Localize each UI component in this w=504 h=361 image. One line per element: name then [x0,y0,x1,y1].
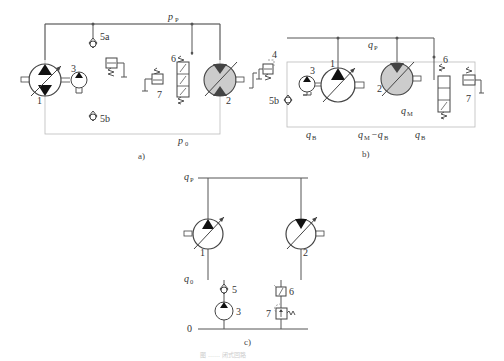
label-2-b: 2 [377,83,382,94]
label-5a: 5a [100,31,110,42]
caption-b: b) [362,149,370,159]
panel-c: 1 2 5 3 6 [184,171,324,347]
svg-text:B: B [384,134,389,141]
label-q0-c: q [184,273,189,284]
svg-text:0: 0 [190,278,193,285]
pump-1-icon [21,64,70,96]
label-1-b: 1 [330,58,335,69]
check-valve-5b-icon [89,111,97,121]
label-6-b: 6 [443,54,448,65]
relief-valve-7-icon [142,68,163,91]
label-5-c: 5 [232,284,237,295]
label-7-c: 7 [266,308,271,319]
label-3-c: 3 [236,306,241,317]
svg-text:M: M [407,110,413,117]
relief-valve-mid-icon [106,58,127,77]
svg-text:0: 0 [185,140,188,147]
shuttle-valve-6-b-icon [438,64,450,119]
relief-valve-4-icon [256,60,274,80]
shuttle-valve-6-icon [177,56,189,104]
pump-1-b-icon [321,68,364,102]
motor-2-icon [204,62,257,96]
label-qM: q [401,105,406,116]
motor-2-c-icon [286,217,324,249]
label-7: 7 [157,89,162,100]
caption-c: c) [244,337,251,347]
shuttle-valve-6-c-icon [274,285,286,296]
relief-valve-7-c-icon [275,304,295,319]
label-2: 2 [226,95,231,106]
label-p0: p [177,135,183,146]
label-4: 4 [272,49,277,60]
charge-pump-3-c-icon [215,302,233,320]
svg-text:B: B [312,134,317,141]
panel-a: 1 3 5a 5b [21,11,257,161]
label-zero: 0 [187,323,192,334]
check-valve-5a-icon [89,38,97,48]
label-3-b: 3 [310,65,315,76]
check-valve-5-c-icon [220,284,228,294]
svg-text:M: M [364,134,370,141]
label-7-b: 7 [466,93,471,104]
label-5b-b: 5b [269,95,279,106]
label-5b: 5b [100,113,110,124]
svg-text:P: P [175,16,179,23]
check-valve-5b-b-icon [284,95,292,105]
label-qM-qB: q [358,129,363,140]
label-6: 6 [171,53,176,64]
label-qB-left: q [306,129,311,140]
label-qB-right: q [415,129,420,140]
charge-pump-3-b-icon [299,76,323,95]
label-2-c: 2 [303,247,308,258]
pump-1-c-icon [184,217,224,249]
label-3: 3 [71,63,76,74]
label-qP-c: q [184,171,189,182]
svg-text:P: P [190,176,194,183]
relief-valve-7-b-icon [463,67,484,93]
label-1-c: 1 [200,247,205,258]
caption-a: a) [138,151,145,161]
label-pP: p [167,11,173,22]
label-1: 1 [37,95,42,106]
svg-text:B: B [421,134,426,141]
hydraulic-circuit-figure: 1 3 5a 5b [0,0,504,361]
label-qP: q [368,39,373,50]
label-6-c: 6 [289,286,294,297]
figure-caption: 图 …… 闭式回路 [200,351,246,359]
motor-2-b-icon [381,62,421,96]
panel-b: 4 5b 3 1 [256,37,484,160]
charge-pump-3-icon [71,72,87,93]
svg-text:−q: −q [371,129,383,140]
svg-text:P: P [374,44,378,51]
